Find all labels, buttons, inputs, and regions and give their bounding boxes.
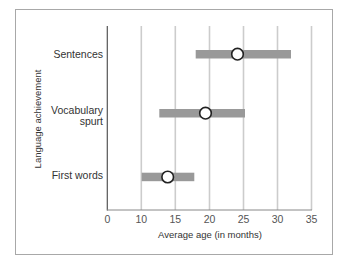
- x-axis-title: Average age (in months): [158, 229, 262, 240]
- x-tick-20: 20: [204, 213, 216, 225]
- x-tick-35: 35: [306, 213, 318, 225]
- x-tick-15: 15: [169, 213, 181, 225]
- marker-first-words: [162, 171, 174, 183]
- x-tick-0: 0: [104, 213, 110, 225]
- x-tick-10: 10: [135, 213, 147, 225]
- x-tick-labels: 0 10 15 20 25 30 35: [104, 213, 317, 225]
- category-label-first-words: First words: [52, 169, 103, 181]
- y-axis-title: Language achievement: [32, 69, 43, 168]
- range-bars: [142, 50, 291, 181]
- category-label-sentences: Sentences: [53, 48, 103, 60]
- x-tick-25: 25: [238, 213, 250, 225]
- x-tick-30: 30: [272, 213, 284, 225]
- marker-vocabulary-spurt: [200, 107, 212, 119]
- marker-sentences: [232, 48, 244, 60]
- range-chart: Sentences Vocabulary spurt First words L…: [0, 0, 345, 274]
- category-label-spurt: spurt: [80, 115, 103, 127]
